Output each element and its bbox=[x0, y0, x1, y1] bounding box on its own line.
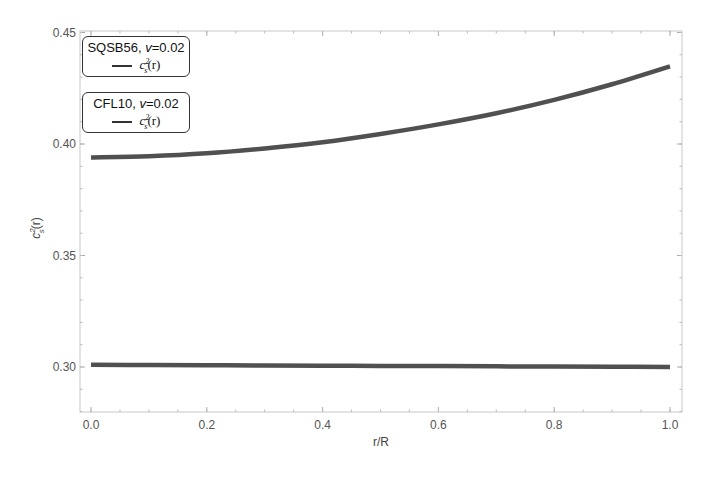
x-tick-label: 0.0 bbox=[83, 418, 100, 432]
legend-cfl10: CFL10, v=0.02 c2s(r) bbox=[82, 92, 190, 133]
y-tick-label: 0.40 bbox=[53, 137, 77, 151]
y-tick-label: 0.35 bbox=[53, 249, 77, 263]
legend-label: c2s(r) bbox=[140, 57, 161, 75]
x-tick-label: 0.4 bbox=[314, 418, 331, 432]
series-line-1 bbox=[91, 365, 670, 367]
legend-entry: c2s(r) bbox=[83, 57, 189, 75]
x-tick-label: 0.6 bbox=[430, 418, 447, 432]
legend-entry: c2s(r) bbox=[83, 113, 189, 131]
x-axis-title: r/R bbox=[373, 435, 389, 449]
legend-line-swatch bbox=[112, 121, 132, 123]
legend-label: c2s(r) bbox=[140, 113, 161, 131]
x-tick-label: 1.0 bbox=[662, 418, 679, 432]
legend-title: SQSB56, v=0.02 bbox=[83, 40, 189, 55]
y-tick-label: 0.45 bbox=[53, 26, 77, 40]
y-axis: 0.300.350.400.45 bbox=[53, 26, 682, 412]
legend-sqsb56: SQSB56, v=0.02 c2s(r) bbox=[82, 36, 190, 77]
x-tick-label: 0.2 bbox=[198, 418, 215, 432]
svg-text:c2s(r): c2s(r) bbox=[28, 217, 46, 238]
y-axis-title: c2s(r) bbox=[28, 217, 46, 238]
y-tick-label: 0.30 bbox=[53, 360, 77, 374]
legend-title: CFL10, v=0.02 bbox=[83, 96, 189, 111]
legend-line-swatch bbox=[112, 65, 132, 67]
x-tick-label: 0.8 bbox=[546, 418, 563, 432]
